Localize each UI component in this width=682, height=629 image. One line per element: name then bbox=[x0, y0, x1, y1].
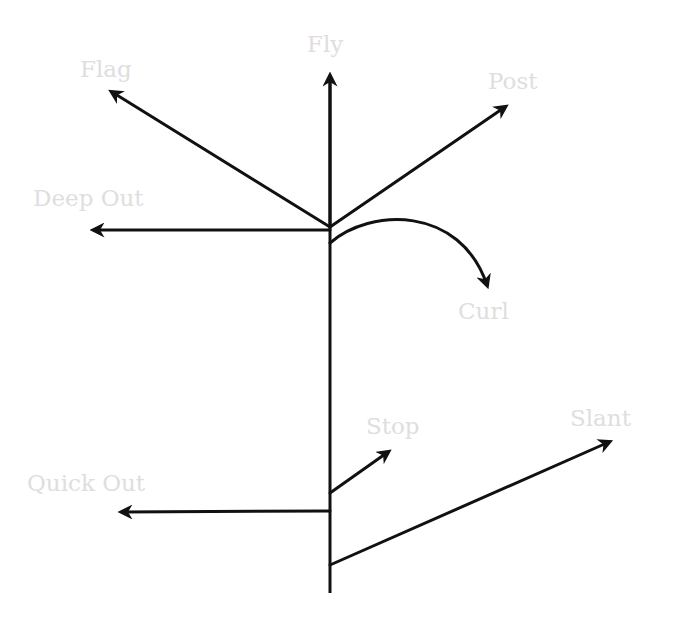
curl-route-arrow bbox=[330, 220, 487, 285]
post-label: Post bbox=[488, 70, 537, 93]
stop-label: Stop bbox=[366, 415, 420, 438]
flag-label: Flag bbox=[80, 58, 132, 81]
flag-route-arrow bbox=[112, 92, 330, 227]
quick-out-route-arrow bbox=[122, 511, 330, 512]
slant-route-arrow bbox=[330, 442, 609, 565]
fly-label: Fly bbox=[307, 33, 343, 56]
stop-route-arrow bbox=[330, 452, 388, 493]
curl-label: Curl bbox=[458, 300, 509, 323]
deep-out-label: Deep Out bbox=[33, 187, 144, 210]
quick-out-label: Quick Out bbox=[27, 472, 145, 495]
route-tree-diagram: Fly Flag Post Deep Out Curl Stop Quick O… bbox=[0, 0, 682, 629]
slant-label: Slant bbox=[570, 407, 631, 430]
route-lines bbox=[0, 0, 682, 629]
post-route-arrow bbox=[330, 107, 505, 227]
